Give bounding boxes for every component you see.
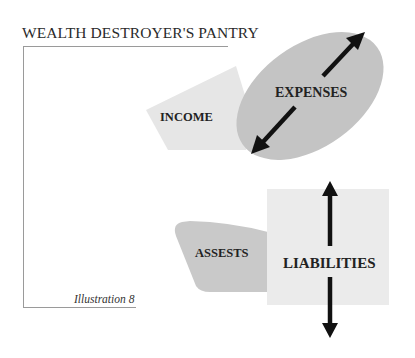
income-shape: INCOME: [146, 66, 252, 150]
liabilities-label: LIABILITIES: [283, 255, 376, 271]
income-label: INCOME: [160, 110, 213, 124]
diagram-canvas: INCOME EXPENSES ASSESTS LIABILITIES: [0, 0, 415, 358]
assets-label: ASSESTS: [195, 246, 249, 260]
liabilities-shape: LIABILITIES: [267, 181, 389, 338]
assets-shape: ASSESTS: [175, 221, 268, 292]
expenses-label: EXPENSES: [275, 85, 348, 100]
